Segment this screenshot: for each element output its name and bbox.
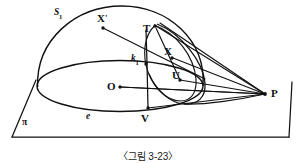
label-point-v: V [141, 113, 149, 124]
label-sphere-s1: S1 [54, 8, 63, 19]
segment-k1-v [146, 30, 148, 108]
plane-edge-left [12, 80, 36, 137]
segment-xprime-x [103, 28, 205, 79]
dot-p [263, 92, 267, 96]
cone-base-curve [149, 24, 205, 104]
dot-v [146, 106, 149, 109]
dot-t [153, 24, 156, 27]
label-point-x-prime: X' [97, 13, 108, 24]
label-point-t: T [143, 23, 150, 34]
label-point-x: X [164, 46, 172, 57]
label-point-u: U [172, 70, 180, 81]
label-ellipse-e: e [86, 112, 90, 122]
cone-silhouette [149, 24, 265, 104]
dot-x-prime [101, 26, 104, 29]
figure-caption: 〈그림 3-23〉 [0, 148, 296, 163]
dot-k1 [144, 62, 147, 65]
label-point-o: O [107, 81, 116, 92]
label-plane-pi: π [22, 118, 27, 128]
label-point-p: P [271, 88, 278, 99]
dot-o [118, 85, 121, 88]
label-circle-k1: k1 [131, 54, 139, 65]
plane-edge-right [289, 82, 292, 137]
figure-container: S1 X' T X k1 U O e V P π 〈그림 3-23〉 [0, 0, 296, 163]
